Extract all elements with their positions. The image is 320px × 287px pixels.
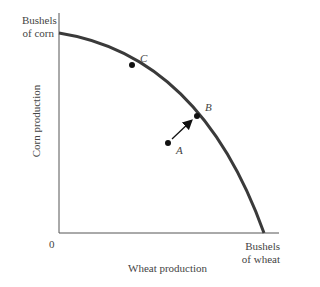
arrow-a-to-b bbox=[172, 121, 191, 139]
point-c-label: C bbox=[140, 52, 147, 65]
point-c bbox=[129, 62, 135, 68]
point-a bbox=[165, 140, 171, 146]
ppf-curve bbox=[59, 33, 264, 233]
x-axis-end-label-line2: of wheat bbox=[240, 253, 280, 266]
y-axis-title: Corn production bbox=[30, 81, 42, 161]
point-b bbox=[194, 113, 200, 119]
point-a-label: A bbox=[176, 144, 183, 157]
y-axis-end-label-line1: Bushels bbox=[22, 14, 54, 27]
x-axis-end-label: Bushels of wheat bbox=[240, 240, 280, 266]
y-axis-end-label: Bushels of corn bbox=[22, 14, 54, 40]
point-b-label: B bbox=[205, 101, 212, 114]
y-axis-end-label-line2: of corn bbox=[22, 27, 54, 40]
x-axis-end-label-line1: Bushels bbox=[240, 240, 280, 253]
x-axis-title: Wheat production bbox=[128, 262, 207, 275]
origin-label: 0 bbox=[49, 238, 55, 251]
